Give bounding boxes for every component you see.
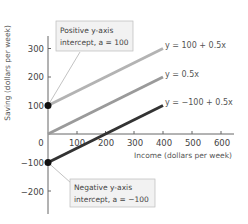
positive-intercept-callout: Positive y-axis intercept, a = 100 — [56, 21, 133, 51]
series-label: y = 0.5x — [165, 70, 199, 79]
svg-text:Negative y-axis: Negative y-axis — [74, 183, 132, 192]
y-tick-label: 100 — [28, 101, 44, 111]
svg-text:intercept, a = −100: intercept, a = −100 — [74, 195, 149, 204]
svg-text:intercept, a = 100: intercept, a = 100 — [60, 38, 129, 47]
series-line-zero-intercept — [48, 77, 163, 134]
negative-intercept-point — [45, 159, 52, 166]
svg-text:Positive y-axis: Positive y-axis — [60, 26, 113, 35]
x-tick-label: 600 — [214, 138, 230, 148]
y-axis-title: Saving (dollars per week) — [3, 25, 12, 121]
x-tick-label: 300 — [127, 138, 143, 148]
series-label: y = 100 + 0.5x — [165, 41, 226, 50]
positive-intercept-point — [45, 102, 52, 109]
x-axis-title: Income (dollars per week) — [134, 151, 232, 160]
y-tick-label: 300 — [28, 44, 44, 54]
x-tick-label: 200 — [98, 138, 114, 148]
y-tick-label: −100 — [21, 158, 44, 168]
x-tick-label: 500 — [185, 138, 201, 148]
negative-callout-leader — [48, 163, 71, 184]
x-tick-label: 400 — [156, 138, 172, 148]
y-tick-label: 200 — [28, 72, 44, 82]
x-tick-label: 0 — [38, 138, 43, 148]
y-tick-label: −200 — [21, 187, 44, 197]
chart: 0 100 200 300 400 500 600 −200 −100 100 … — [0, 0, 248, 224]
negative-intercept-callout: Negative y-axis intercept, a = −100 — [70, 179, 155, 207]
series-label: y = −100 + 0.5x — [165, 98, 233, 107]
